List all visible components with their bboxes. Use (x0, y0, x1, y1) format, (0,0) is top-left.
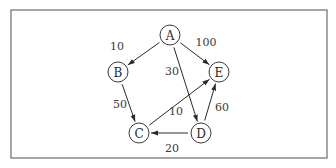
node-label: A (165, 29, 175, 43)
node-a: A (160, 25, 180, 45)
node-c: C (129, 123, 149, 143)
graph-diagram: 101003050102060 ABCDE (0, 0, 336, 168)
graph-svg: 101003050102060 ABCDE (0, 0, 336, 168)
node-e: E (209, 62, 229, 82)
node-label: B (114, 66, 123, 80)
node-d: D (191, 123, 211, 143)
node-label: D (196, 127, 206, 141)
edge-weight-label: 10 (169, 105, 183, 118)
edge-weight-label: 50 (113, 98, 127, 111)
edge-weight-label: 10 (110, 40, 124, 53)
edge-weight-label: 60 (215, 101, 229, 114)
node-label: E (215, 66, 224, 80)
edge-weight-label: 20 (165, 142, 179, 155)
node-label: C (134, 127, 143, 141)
node-b: B (108, 62, 128, 82)
edge-weight-label: 30 (165, 65, 179, 78)
edge-weight-label: 100 (196, 36, 217, 49)
